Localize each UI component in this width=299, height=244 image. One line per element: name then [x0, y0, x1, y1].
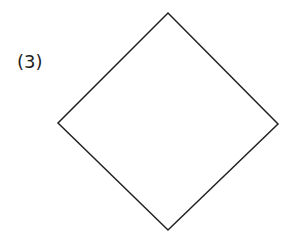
figure-drawing: (3) [0, 0, 299, 244]
canvas-background [0, 0, 299, 244]
figure-label: (3) [17, 51, 43, 72]
figure-canvas: (3) [0, 0, 299, 244]
